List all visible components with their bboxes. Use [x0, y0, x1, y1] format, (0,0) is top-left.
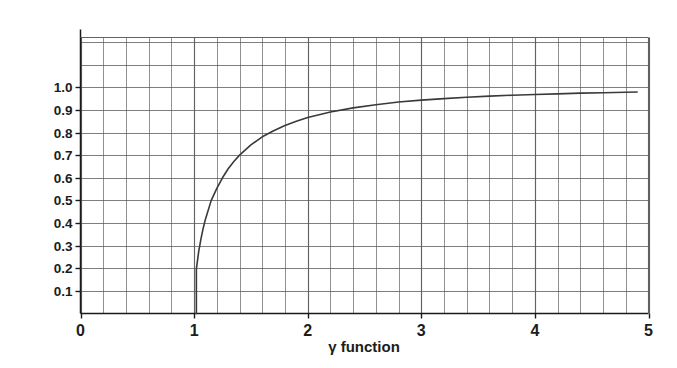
chart-figure: 0.10.20.30.40.50.60.70.80.91.0 012345 ve…	[0, 0, 677, 368]
horizontal-gridlines	[81, 43, 649, 292]
y-tick-label: 0.1	[39, 283, 73, 298]
x-tick-label: 2	[296, 322, 320, 340]
x-tick-label: 4	[523, 322, 547, 340]
y-tick-label: 1.0	[39, 80, 73, 95]
y-tick-label: 0.8	[39, 125, 73, 140]
tick-marks	[76, 88, 650, 319]
y-tick-label: 0.5	[39, 193, 73, 208]
axis-lines	[81, 30, 649, 314]
y-tick-label: 0.9	[39, 102, 73, 117]
x-tick-label: 0	[69, 322, 93, 340]
y-tick-label: 0.7	[39, 148, 73, 163]
y-tick-label: 0.3	[39, 238, 73, 253]
y-tick-label: 0.6	[39, 170, 73, 185]
vertical-gridlines	[82, 38, 650, 314]
y-tick-label: 0.2	[39, 261, 73, 276]
y-tick-label: 0.4	[39, 216, 73, 231]
chart-plot-svg	[0, 0, 677, 368]
x-tick-label: 3	[409, 322, 433, 340]
x-tick-label: 1	[182, 322, 206, 340]
x-tick-label: 5	[637, 322, 661, 340]
